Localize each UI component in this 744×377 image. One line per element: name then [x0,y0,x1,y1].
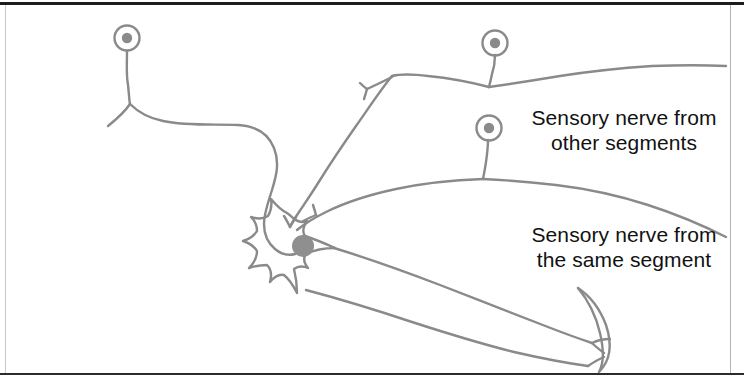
muscle-fiber-right-edge [578,288,610,372]
terminal-branch-upper-a [367,77,392,89]
terminal-branch-upper-b [360,83,367,89]
label-other-line1: Sensory nerve from [508,105,740,130]
dendrite-branch-left [108,104,130,126]
soma-terminal-fork-a [284,216,290,227]
axon-lower-edge [306,290,588,366]
receptor-dot-middle-right [484,123,494,133]
label-same-line2: the same segment [508,247,740,272]
terminal-branch-upper-c [364,89,367,99]
label-sensory-nerve-same-segment: Sensory nerve from the same segment [508,222,740,272]
receptor-dot-top-left [122,33,132,43]
receptor-dot-top-right [490,38,500,48]
receptor-stalk-top-right [489,55,495,87]
soma-nucleus [292,235,314,257]
nerve-trunk-top-right [489,65,726,87]
terminal-branch-mid-b [313,205,316,215]
dendrite-long-left [130,104,295,255]
label-other-line2: other segments [508,130,740,155]
soma-outline [243,199,335,293]
label-same-line1: Sensory nerve from [508,222,740,247]
label-sensory-nerve-other-segments: Sensory nerve from other segments [508,105,740,155]
nerve-segment-same-to-soma [297,179,483,230]
neuron-diagram [0,0,744,377]
receptor-stalk-top-left [127,51,130,104]
figure-canvas: Sensory nerve from other segments Sensor… [0,0,744,377]
nerve-segment-upper-left [392,75,489,88]
receptor-stalk-middle-right [483,140,488,179]
